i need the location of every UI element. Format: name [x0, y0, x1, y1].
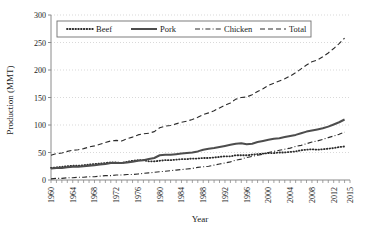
x-tick-label: 1992 — [221, 187, 230, 203]
x-tick-label: 1968 — [90, 187, 99, 203]
series-line-total — [51, 38, 345, 155]
x-tick-label: 2012 — [330, 187, 339, 203]
x-tick-label: 1988 — [199, 187, 208, 203]
y-tick-label: 100 — [34, 121, 46, 130]
x-tick-label: 1972 — [112, 187, 121, 203]
series-line-chicken — [51, 132, 345, 179]
series-line-pork — [51, 120, 345, 169]
production-line-chart: 1960196419681972197619801984198819921996… — [0, 0, 366, 234]
y-tick-label: 300 — [34, 11, 46, 20]
chart-legend: BeefPorkChickenTotal — [57, 21, 311, 37]
x-tick-label: 1976 — [134, 187, 143, 203]
x-tick-label: 1996 — [243, 187, 252, 203]
x-tick-label: 2004 — [286, 187, 295, 203]
x-tick-label: 1984 — [177, 187, 186, 203]
y-tick-label: 50 — [38, 149, 46, 158]
x-tick-label: 2015 — [346, 187, 355, 203]
y-tick-label: 0 — [42, 176, 46, 185]
y-tick-label: 200 — [34, 66, 46, 75]
x-axis-tick-labels: 1960196419681972197619801984198819921996… — [47, 187, 355, 203]
x-tick-label: 1964 — [69, 187, 78, 203]
y-tick-label: 150 — [34, 94, 46, 103]
x-axis-title: Year — [192, 214, 209, 224]
y-axis-tick-labels: 050100150200250300 — [34, 11, 46, 185]
x-tick-label: 1980 — [156, 187, 165, 203]
x-tick-label: 2008 — [308, 187, 317, 203]
data-series-group — [51, 38, 345, 179]
legend-label-beef: Beef — [96, 24, 112, 34]
y-tick-label: 250 — [34, 39, 46, 48]
legend-label-total: Total — [289, 24, 307, 34]
x-tick-label: 1960 — [47, 187, 56, 203]
legend-label-chicken: Chicken — [224, 24, 253, 34]
chart-canvas: 1960196419681972197619801984198819921996… — [0, 0, 366, 234]
legend-label-pork: Pork — [160, 24, 177, 34]
x-tick-label: 2000 — [264, 187, 273, 203]
axis-lines — [51, 15, 350, 180]
y-axis-title: Production (MMT) — [5, 65, 15, 134]
